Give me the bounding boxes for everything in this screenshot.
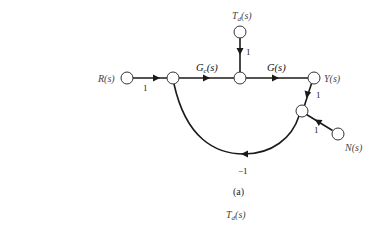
node-measurement (296, 105, 308, 117)
label-disturbance: Td(s) (232, 10, 252, 23)
node-disturbance (234, 26, 246, 38)
label-disturbance-gain: 1 (246, 47, 251, 57)
label-input: R(s) (97, 73, 115, 85)
arrow-plant (272, 75, 279, 82)
label-plant: G(s) (267, 62, 286, 74)
label-bottom-disturbance: Td(s) (226, 209, 246, 222)
label-feedback-gain: −1 (238, 166, 248, 176)
edge-feedback (174, 84, 299, 154)
label-input-gain: 1 (143, 83, 148, 93)
label-controller: Gc(s) (196, 62, 218, 75)
arrow-disturbance (237, 48, 244, 55)
label-noise: N(s) (344, 142, 363, 154)
label-noise-gain: 1 (314, 125, 319, 135)
arrow-input (153, 75, 160, 82)
signal-flow-graph: R(s) 1 Gc(s) G(s) Td(s) 1 Y(s) 1 1 N(s) … (0, 0, 379, 230)
label-output-gain: 1 (316, 90, 321, 100)
arrow-controller (203, 75, 210, 82)
node-error (167, 72, 179, 84)
node-noise (332, 128, 344, 140)
node-input (121, 72, 133, 84)
label-output: Y(s) (324, 73, 341, 85)
node-output (308, 72, 320, 84)
arrow-feedback (241, 151, 248, 158)
caption: (a) (233, 186, 244, 198)
node-sum (234, 72, 246, 84)
